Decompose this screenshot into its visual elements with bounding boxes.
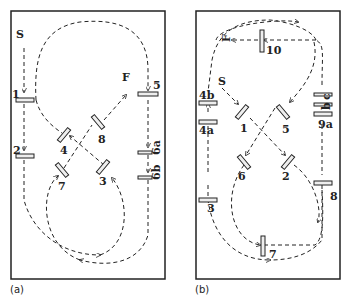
svg-text:3: 3	[207, 202, 215, 215]
panel-b-caption: (b)	[195, 284, 209, 295]
svg-text:8: 8	[98, 133, 106, 146]
svg-text:3: 3	[99, 175, 107, 188]
svg-text:2: 2	[13, 144, 21, 157]
panel-a-caption: (a)	[10, 284, 24, 295]
mirror-1	[235, 105, 248, 120]
mirror-8	[91, 115, 104, 130]
panel-a-finish-label: F	[122, 71, 130, 84]
svg-text:4b: 4b	[199, 89, 215, 102]
svg-text:9a: 9a	[318, 118, 333, 131]
svg-text:6b: 6b	[150, 164, 163, 180]
panel-a-frame	[11, 11, 165, 279]
mirror-5	[138, 92, 158, 96]
mirror-3	[96, 160, 109, 175]
svg-text:7: 7	[58, 180, 66, 193]
panel-a-start-label: S	[16, 28, 24, 41]
mirror-4	[57, 128, 70, 143]
mirror-7	[55, 163, 68, 178]
svg-text:4: 4	[60, 144, 68, 157]
mirror-path-diagram: S F 1 2 3 4 5 6a 6b 7 8 (a)	[0, 0, 352, 307]
mirror-8	[314, 181, 332, 185]
svg-text:b: b	[320, 102, 333, 110]
svg-text:1: 1	[12, 88, 20, 101]
mirror-5	[276, 105, 289, 120]
svg-text:7: 7	[269, 248, 277, 261]
mirror-7	[261, 236, 265, 256]
svg-text:10: 10	[266, 44, 282, 57]
svg-text:c: c	[320, 93, 333, 100]
panel-a: S F 1 2 3 4 5 6a 6b 7 8 (a)	[10, 11, 165, 295]
mirror-9a	[314, 112, 332, 116]
panel-b: S F 1 2 3 4a 4b 5 6 7	[195, 11, 340, 295]
svg-text:2: 2	[282, 170, 290, 183]
svg-text:6: 6	[238, 170, 246, 183]
mirror-10	[260, 30, 264, 52]
svg-text:6a: 6a	[150, 140, 163, 155]
mirror-6	[237, 155, 250, 170]
mirror-2	[281, 155, 294, 170]
svg-text:4a: 4a	[199, 124, 214, 137]
svg-text:5: 5	[153, 79, 161, 92]
panel-b-start-label: S	[218, 75, 226, 88]
svg-text:5: 5	[282, 123, 290, 136]
svg-text:1: 1	[240, 122, 248, 135]
svg-text:8: 8	[330, 190, 338, 203]
